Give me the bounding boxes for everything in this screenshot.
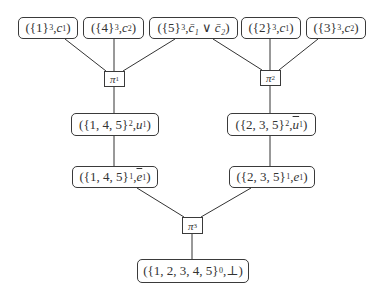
node-exponent: 3	[337, 23, 341, 32]
edge-n3-p1	[123, 39, 175, 71]
node-set: {3}	[318, 20, 337, 36]
state-node: ({2}3, c1)	[241, 17, 301, 39]
node-set: {1, 4, 5}	[83, 117, 128, 133]
state-node: ({2, 3, 5}2, u1)	[227, 113, 316, 136]
node-set: {4}	[95, 20, 114, 36]
edge-n5-p2	[279, 39, 318, 70]
node-label: ⊥	[226, 263, 238, 279]
close-paren: )	[238, 263, 242, 279]
node-set: {2}	[253, 20, 272, 36]
node-set: {1, 2, 3, 4, 5}	[148, 263, 219, 279]
node-set: {1, 4, 5}	[84, 169, 129, 185]
node-exponent: 3	[115, 23, 119, 32]
state-node: ({4}3, c2)	[83, 17, 144, 39]
state-node: ({3}3, c2)	[306, 17, 366, 39]
edge-n9-p3	[201, 188, 251, 217]
close-paren: )	[225, 20, 229, 36]
state-node: ({1, 4, 5}2, u1)	[71, 113, 159, 136]
state-node: ({2, 3, 5}1, e1)	[229, 166, 315, 188]
node-set: {2, 3, 5}	[240, 117, 285, 133]
node-set: {5}	[162, 20, 181, 36]
edge-n3-p2	[213, 39, 262, 70]
state-node: ({5}3, c̄₁ ∨ c̄₂)	[149, 17, 238, 39]
operator-node-p3: π3	[182, 217, 203, 234]
node-exponent: 0	[219, 266, 223, 275]
node-exponent: 3	[181, 23, 185, 32]
node-exponent: 1	[286, 172, 290, 181]
node-exponent: 1	[129, 172, 133, 181]
state-node: ({1, 2, 3, 4, 5}0, ⊥)	[137, 259, 249, 283]
node-label: c̄₁ ∨ c̄₂	[189, 20, 226, 36]
close-paren: )	[147, 117, 151, 133]
operator-subscript: 2	[272, 74, 276, 82]
node-exponent: 2	[129, 119, 133, 128]
close-paren: )	[303, 169, 307, 185]
edge-n8-p3	[137, 188, 184, 217]
operator-node-p1: π1	[104, 71, 125, 87]
edge-n1-p1	[65, 39, 106, 71]
state-node: ({1, 4, 5}1, e1)	[72, 166, 158, 188]
node-set: {2, 3, 5}	[241, 169, 286, 185]
close-paren: )	[354, 20, 358, 36]
close-paren: )	[146, 169, 150, 185]
state-node: ({1}3, c1)	[18, 17, 78, 39]
close-paren: )	[66, 20, 70, 36]
operator-subscript: 3	[194, 222, 198, 230]
close-paren: )	[132, 20, 136, 36]
diagram-edges	[0, 0, 383, 302]
operator-subscript: 1	[116, 75, 120, 83]
operator-node-p2: π2	[260, 70, 281, 86]
close-paren: )	[303, 117, 307, 133]
node-exponent: 3	[49, 23, 53, 32]
node-set: {1}	[30, 20, 49, 36]
node-exponent: 2	[285, 119, 289, 128]
node-exponent: 3	[272, 23, 276, 32]
close-paren: )	[289, 20, 293, 36]
